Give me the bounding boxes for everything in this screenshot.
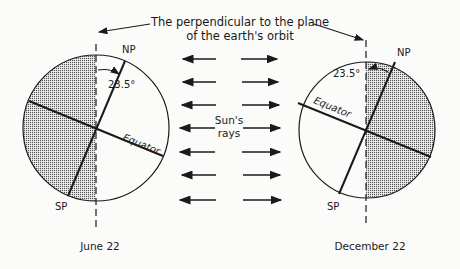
title-line-1: The perpendicular to the plane [150, 15, 329, 29]
north-pole-label: NP [397, 47, 411, 58]
night-side-shading [366, 55, 441, 205]
date-label-december: December 22 [334, 240, 405, 252]
earth-december: NP 23.5° Equator SP [298, 47, 441, 212]
title-line-2: of the earth's orbit [186, 29, 294, 43]
sun-rays-label-1: Sun's [215, 114, 243, 126]
equator-label: Equator [121, 132, 162, 157]
earth-tilt-diagram: The perpendicular to the plane of the ea… [0, 0, 460, 269]
north-pole-label: NP [122, 44, 136, 55]
sun-rays-label-2: rays [218, 127, 240, 139]
angle-label: 23.5° [333, 68, 360, 79]
night-side-shading [20, 50, 96, 210]
south-pole-label: SP [327, 201, 339, 212]
south-pole-label: SP [55, 201, 67, 212]
angle-label: 23.5° [108, 79, 135, 90]
angle-arc [98, 70, 119, 75]
title-arrow-left [99, 24, 150, 32]
title-arrow-right [314, 24, 363, 40]
earth-june: NP 23.5° Equator SP [20, 44, 169, 212]
date-label-june: June 22 [79, 240, 120, 252]
